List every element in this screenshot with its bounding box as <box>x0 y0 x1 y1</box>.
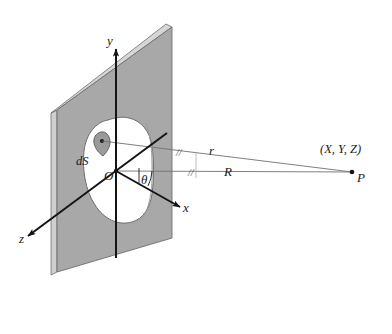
diffraction-geometry-diagram: // // y x z O dS r R θ (X, Y, Z) P <box>0 0 392 334</box>
y-axis-label: y <box>105 33 113 48</box>
origin-label: O <box>104 168 114 183</box>
opaque-plane <box>51 24 172 275</box>
theta-label: θ <box>141 172 148 187</box>
point-P-dot <box>350 170 355 175</box>
point-P-label: P <box>356 170 365 185</box>
field-point <box>350 170 355 175</box>
plane-left-thickness-edge <box>51 110 57 275</box>
field-point-coords-label: (X, Y, Z) <box>320 142 361 156</box>
z-axis-label: z <box>18 231 24 246</box>
origin-point <box>114 169 118 173</box>
parallel-tick-R: // <box>187 167 195 178</box>
parallel-tick-r: // <box>175 147 183 158</box>
x-axis-label: x <box>182 200 189 215</box>
vector-R-label: R <box>223 164 232 179</box>
vector-r-label: r <box>209 143 215 158</box>
ds-label: dS <box>76 154 89 168</box>
figure-root: // // y x z O dS r R θ (X, Y, Z) P <box>0 0 392 334</box>
